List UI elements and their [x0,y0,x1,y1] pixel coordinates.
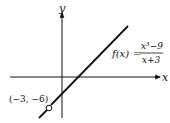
function-line-lower [39,110,47,118]
y-axis-label: y [58,2,66,15]
hole-point-label: (−3, −6) [9,94,48,104]
x-axis-label: x [162,71,169,84]
function-name: f(x) [111,48,129,59]
function-line-upper [51,26,128,105]
function-denominator: x+3 [142,55,161,65]
function-numerator: x³−9 [141,41,163,51]
hole-marker [46,105,52,111]
graph-canvas: y x f(x) = x³−9 x+3 (−3, −6) [0,0,170,123]
